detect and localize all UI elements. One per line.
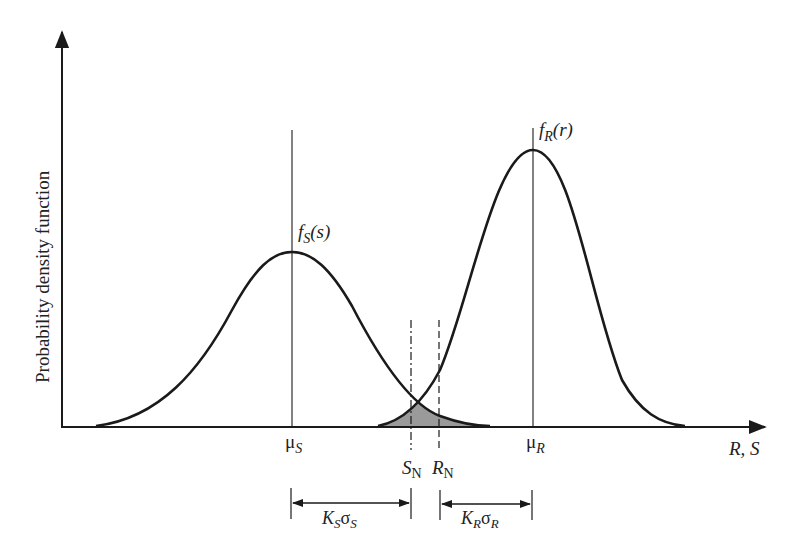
svg-text:KSσS: KSσS (321, 508, 357, 531)
ks-sigma-s-interval: KSσS (291, 488, 411, 531)
strength-pdf-curve (378, 150, 685, 426)
nominal-stress-label: SN (402, 457, 422, 481)
mean-strength-label: μR (526, 431, 545, 456)
x-axis-label: R, S (728, 438, 760, 459)
strength-pdf-label: fR(r) (539, 119, 573, 144)
interference-diagram: Probability density function R, S fS(s) … (0, 0, 797, 552)
svg-text:KRσR: KRσR (460, 508, 499, 531)
y-axis-label: Probability density function (32, 170, 53, 383)
mean-stress-label: μS (285, 431, 302, 456)
nominal-strength-label: RN (431, 457, 454, 481)
kr-sigma-r-interval: KRσR (440, 490, 532, 531)
stress-pdf-label: fS(s) (298, 221, 330, 246)
failure-overlap-region (378, 150, 685, 426)
stress-pdf-curve (96, 252, 490, 426)
